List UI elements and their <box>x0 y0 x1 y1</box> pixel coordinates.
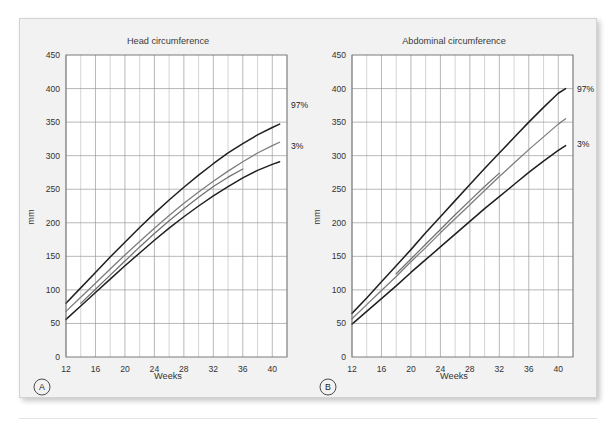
panel-b-x-tick-label: 32 <box>495 364 505 374</box>
panel-letter-a-group: A <box>34 379 50 395</box>
panel-b-y-tick-label: 450 <box>332 50 347 60</box>
panel-a-y-tick-label: 50 <box>50 318 60 328</box>
panel-a-x-tick-label: 20 <box>120 364 130 374</box>
panel-a-y-tick-label: 300 <box>46 151 61 161</box>
panel-b-x-tick-label: 36 <box>524 364 534 374</box>
panel-a-x-tick-label: 12 <box>61 364 71 374</box>
head-circumference-chart: 0501001502002503003504004501216202428323… <box>20 19 309 399</box>
panel-b-y-tick-label: 200 <box>332 218 347 228</box>
panel-b-percentile-label: 3% <box>577 139 590 149</box>
panel-b-y-tick-label: 50 <box>336 318 346 328</box>
panel-b-y-tick-label: 300 <box>332 151 347 161</box>
y-axis-title-a: mm <box>26 209 36 225</box>
panel-b-x-tick-label: 40 <box>553 364 563 374</box>
panel-a-x-tick-label: 16 <box>91 364 101 374</box>
panel-a-y-tick-label: 150 <box>46 251 61 261</box>
panel-b-y-tick-label: 100 <box>332 285 347 295</box>
panel-a-plot-background <box>66 55 287 357</box>
panel-a-y-tick-label: 350 <box>46 117 61 127</box>
chart-panel-abdominal-circumference: 0501001502002503003504004501216202428323… <box>306 19 595 399</box>
panel-letter-a: A <box>39 382 45 392</box>
panel-a-x-tick-label: 36 <box>238 364 248 374</box>
panel-b-y-tick-label: 400 <box>332 84 347 94</box>
panel-a-y-tick-label: 400 <box>46 84 61 94</box>
x-axis-title-a: Weeks <box>154 371 182 381</box>
panel-a-x-tick-label: 40 <box>267 364 277 374</box>
panel-b-plot-background <box>352 55 573 357</box>
panel-letter-b-group: B <box>320 379 336 395</box>
panel-b-y-tick-label: 250 <box>332 184 347 194</box>
chart-title-a: Head circumference <box>127 36 209 46</box>
panel-a-x-tick-label: 32 <box>209 364 219 374</box>
panel-b-x-tick-label: 20 <box>406 364 416 374</box>
panel-a-y-tick-label: 100 <box>46 285 61 295</box>
panel-b-x-tick-label: 12 <box>347 364 357 374</box>
chart-panel-head-circumference: 0501001502002503003504004501216202428323… <box>20 19 309 399</box>
panel-letter-b: B <box>325 382 331 392</box>
panel-b-y-tick-label: 150 <box>332 251 347 261</box>
panel-a-y-tick-label: 450 <box>46 50 61 60</box>
panel-a-plot-group: 0501001502002503003504004501216202428323… <box>46 50 309 374</box>
panel-b-y-tick-label: 350 <box>332 117 347 127</box>
panel-b-x-tick-label: 16 <box>377 364 387 374</box>
chart-title-b: Abdominal circumference <box>402 36 506 46</box>
y-axis-title-b: mm <box>312 209 322 225</box>
panel-a-percentile-label: 3% <box>291 141 304 151</box>
x-axis-title-b: Weeks <box>440 371 468 381</box>
panel-b-y-tick-label: 0 <box>341 352 346 362</box>
panel-a-y-tick-label: 200 <box>46 218 61 228</box>
figure-card: 0501001502002503003504004501216202428323… <box>19 18 597 398</box>
bottom-divider <box>19 418 597 419</box>
panel-a-y-tick-label: 0 <box>55 352 60 362</box>
abdominal-circumference-chart: 0501001502002503003504004501216202428323… <box>306 19 595 399</box>
panel-b-percentile-label: 97% <box>577 84 595 94</box>
panel-a-y-tick-label: 250 <box>46 184 61 194</box>
panel-b-plot-group: 0501001502002503003504004501216202428323… <box>332 50 595 374</box>
